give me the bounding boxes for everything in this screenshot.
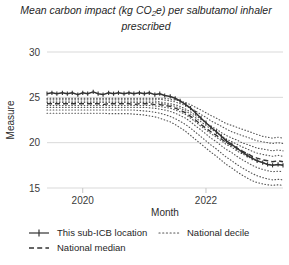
legend-label-national-decile: National decile bbox=[187, 227, 249, 238]
x-tick-labels: 20202022 bbox=[72, 195, 218, 206]
series-line-decile bbox=[47, 107, 283, 171]
legend-key-dotted bbox=[158, 228, 180, 238]
y-tick-labels: 30252015 bbox=[29, 47, 41, 194]
x-axis-title: Month bbox=[151, 207, 179, 218]
series-line-national-median bbox=[47, 104, 283, 162]
series-line-decile bbox=[47, 99, 283, 143]
legend-row-1: This sub-ICB location National decile bbox=[28, 225, 280, 240]
y-tick-label: 20 bbox=[29, 137, 41, 148]
legend-key-dashed bbox=[28, 243, 50, 253]
x-tick-label: 2020 bbox=[72, 195, 95, 206]
y-axis-title: Measure bbox=[5, 100, 16, 139]
legend-item-this-location[interactable]: This sub-ICB location bbox=[28, 227, 158, 238]
legend-row-2: National median bbox=[28, 240, 280, 255]
x-tick-marks bbox=[83, 188, 206, 193]
legend-label-this-location: This sub-ICB location bbox=[57, 227, 147, 238]
series-line-decile bbox=[47, 101, 283, 151]
y-tick-label: 15 bbox=[29, 183, 41, 194]
carbon-impact-chart: Mean carbon impact (kg CO2e) per salbuta… bbox=[0, 0, 289, 265]
y-tick-label: 25 bbox=[29, 92, 41, 103]
legend-item-national-decile[interactable]: National decile bbox=[158, 227, 249, 238]
series-line-decile bbox=[47, 113, 283, 185]
series-layer bbox=[47, 90, 283, 185]
chart-legend: This sub-ICB location National decile Na… bbox=[28, 225, 280, 255]
legend-key-solid-marker bbox=[28, 228, 50, 238]
legend-label-national-median: National median bbox=[57, 242, 126, 253]
x-tick-label: 2022 bbox=[195, 195, 218, 206]
legend-item-national-median[interactable]: National median bbox=[28, 242, 158, 253]
y-tick-label: 30 bbox=[29, 47, 41, 58]
